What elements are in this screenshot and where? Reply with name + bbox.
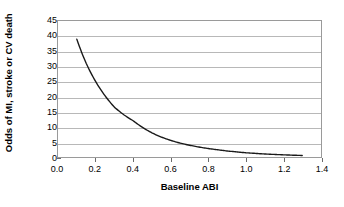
x-axis-ticks: 0.00.20.40.60.81.01.21.4 bbox=[57, 158, 322, 180]
y-tick-label: 10 bbox=[35, 123, 57, 132]
y-axis-ticks: 051015202530354045 bbox=[28, 20, 57, 158]
x-tick-label: 1.2 bbox=[269, 165, 299, 174]
x-tick-mark bbox=[133, 158, 134, 162]
x-tick-mark bbox=[246, 158, 247, 162]
y-tick-label: 0 bbox=[35, 154, 57, 163]
y-tick-label: 45 bbox=[35, 16, 57, 25]
x-tick-mark bbox=[322, 158, 323, 162]
data-curve bbox=[58, 21, 321, 157]
x-tick-label: 0.8 bbox=[193, 165, 223, 174]
chart-figure: Odds of MI, stroke or CV death 051015202… bbox=[0, 0, 344, 207]
x-axis-title: Baseline ABI bbox=[57, 182, 322, 192]
x-tick-label: 0.6 bbox=[156, 165, 186, 174]
y-axis-title: Odds of MI, stroke or CV death bbox=[0, 0, 16, 165]
x-tick-label: 0.0 bbox=[42, 165, 72, 174]
x-tick-label: 0.2 bbox=[80, 165, 110, 174]
y-axis-title-text: Odds of MI, stroke or CV death bbox=[3, 13, 13, 152]
x-tick-mark bbox=[208, 158, 209, 162]
y-tick-label: 40 bbox=[35, 31, 57, 40]
x-tick-mark bbox=[171, 158, 172, 162]
y-tick-label: 30 bbox=[35, 62, 57, 71]
y-tick-label: 25 bbox=[35, 77, 57, 86]
x-tick-mark bbox=[284, 158, 285, 162]
x-tick-mark bbox=[95, 158, 96, 162]
y-tick-label: 15 bbox=[35, 108, 57, 117]
y-tick-label: 35 bbox=[35, 46, 57, 55]
series-line-odds bbox=[77, 39, 302, 155]
y-tick-label: 20 bbox=[35, 92, 57, 101]
x-tick-label: 1.0 bbox=[231, 165, 261, 174]
x-tick-label: 1.4 bbox=[307, 165, 337, 174]
plot-area bbox=[57, 20, 322, 158]
x-tick-label: 0.4 bbox=[118, 165, 148, 174]
y-tick-label: 5 bbox=[35, 138, 57, 147]
